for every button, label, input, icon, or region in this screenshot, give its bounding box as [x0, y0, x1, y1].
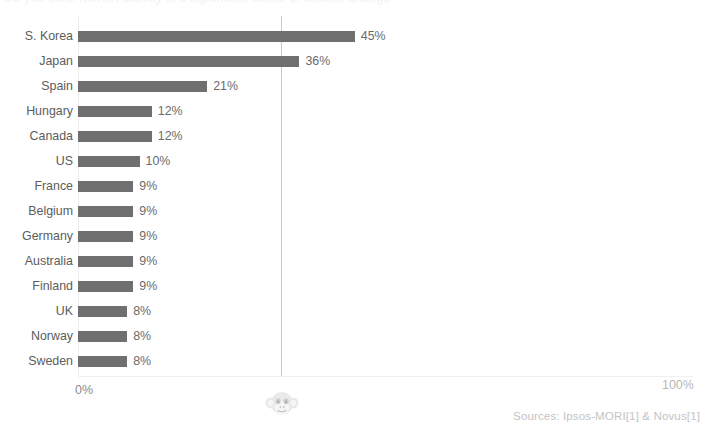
bar [78, 181, 133, 192]
category-label: Canada [0, 124, 73, 149]
bar-value-label: 12% [158, 124, 183, 149]
bar-row: S. Korea45% [0, 24, 714, 49]
bar-row: France9% [0, 174, 714, 199]
chart-title-text: Do you think human activity is a signifi… [4, 0, 398, 5]
category-label: S. Korea [0, 24, 73, 49]
bar [78, 81, 207, 92]
category-label: UK [0, 299, 73, 324]
category-label: Finland [0, 274, 73, 299]
bar [78, 56, 299, 67]
category-label: Norway [0, 324, 73, 349]
bar-row: UK8% [0, 299, 714, 324]
bar [78, 156, 140, 167]
bar [78, 206, 133, 217]
bar [78, 331, 127, 342]
bar [78, 106, 152, 117]
bar-value-label: 8% [133, 349, 151, 374]
bar-row: Sweden8% [0, 349, 714, 374]
bar-row: Germany9% [0, 224, 714, 249]
bar [78, 356, 127, 367]
category-label: Germany [0, 224, 73, 249]
bar-row: Hungary12% [0, 99, 714, 124]
category-label: France [0, 174, 73, 199]
bar-value-label: 9% [139, 174, 157, 199]
category-label: US [0, 149, 73, 174]
axis-tick-max: 100% [662, 378, 694, 392]
bar [78, 306, 127, 317]
bar-value-label: 9% [139, 249, 157, 274]
bar [78, 231, 133, 242]
bar-row: Japan36% [0, 49, 714, 74]
bar-value-label: 9% [139, 274, 157, 299]
bar [78, 256, 133, 267]
bar-row: Canada12% [0, 124, 714, 149]
bar-value-label: 9% [139, 224, 157, 249]
bar-value-label: 9% [139, 199, 157, 224]
bar [78, 281, 133, 292]
bar-row: Norway8% [0, 324, 714, 349]
chart-title-clipped: Do you think human activity is a signifi… [0, 0, 714, 11]
axis-tick-min: 0% [75, 383, 93, 397]
bar-value-label: 8% [133, 324, 151, 349]
category-axis-line [78, 376, 693, 377]
bar [78, 131, 152, 142]
bar-value-label: 10% [146, 149, 171, 174]
category-label: Hungary [0, 99, 73, 124]
bar-row: Finland9% [0, 274, 714, 299]
bar-row: Australia9% [0, 249, 714, 274]
bar-chart: S. Korea45%Japan36%Spain21%Hungary12%Can… [0, 11, 714, 431]
bar-row: Belgium9% [0, 199, 714, 224]
category-label: Spain [0, 74, 73, 99]
bar-value-label: 12% [158, 99, 183, 124]
category-label: Belgium [0, 199, 73, 224]
bar-value-label: 36% [305, 49, 330, 74]
bar-value-label: 21% [213, 74, 238, 99]
bar [78, 31, 355, 42]
category-label: Sweden [0, 349, 73, 374]
bar-value-label: 8% [133, 299, 151, 324]
bar-row: Spain21% [0, 74, 714, 99]
bar-row: US10% [0, 149, 714, 174]
bar-value-label: 45% [361, 24, 386, 49]
chart-page: { "title": { "text": "Do you think human… [0, 0, 714, 431]
category-label: Japan [0, 49, 73, 74]
sources-attribution: Sources: Ipsos-MORI[1] & Novus[1] [513, 409, 700, 422]
category-label: Australia [0, 249, 73, 274]
monkey-face-icon [265, 390, 299, 416]
